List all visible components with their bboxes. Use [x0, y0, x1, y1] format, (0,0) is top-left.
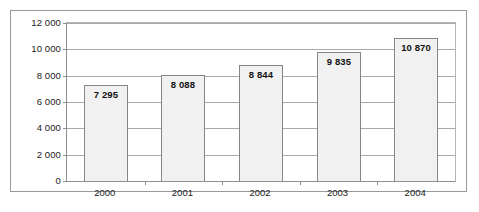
x-tick-label: 2004 — [405, 187, 426, 198]
gridline — [67, 23, 455, 24]
y-tick-label: 10 000 — [31, 43, 61, 54]
x-axis: 20002001200220032004 — [66, 184, 456, 202]
y-tick-label: 6 000 — [37, 96, 61, 107]
bar-chart-figure: 02 0004 0006 0008 00010 00012 000 7 2958… — [11, 11, 468, 193]
y-tick-label: 4 000 — [37, 122, 61, 133]
y-tick-label: 0 — [56, 175, 61, 186]
y-tick-label: 2 000 — [37, 148, 61, 159]
y-tickmark — [63, 102, 67, 103]
y-axis: 02 0004 0006 0008 00010 00012 000 — [11, 11, 65, 193]
bar-value-label: 9 835 — [318, 56, 360, 67]
bar: 10 870 — [394, 38, 438, 181]
y-tickmark — [63, 76, 67, 77]
y-tick-label: 8 000 — [37, 69, 61, 80]
plot-area: 7 2958 0888 8449 83510 870 — [66, 22, 456, 182]
bar: 7 295 — [84, 85, 128, 181]
x-tick-label: 2002 — [249, 187, 270, 198]
y-tickmark — [63, 181, 67, 182]
bar-value-label: 8 088 — [162, 79, 204, 90]
bar-value-label: 10 870 — [395, 42, 437, 53]
bar-value-label: 8 844 — [240, 69, 282, 80]
bar: 9 835 — [317, 52, 361, 181]
bar: 8 844 — [239, 65, 283, 181]
x-tick-label: 2003 — [327, 187, 348, 198]
x-tick-label: 2001 — [172, 187, 193, 198]
y-tickmark — [63, 128, 67, 129]
bar-value-label: 7 295 — [85, 89, 127, 100]
y-tickmark — [63, 155, 67, 156]
chart-frame: 02 0004 0006 0008 00010 00012 000 7 2958… — [10, 10, 467, 192]
x-tick-label: 2000 — [94, 187, 115, 198]
gridline — [67, 181, 455, 182]
y-tickmark — [63, 49, 67, 50]
y-tick-label: 12 000 — [31, 17, 61, 28]
bar: 8 088 — [161, 75, 205, 181]
y-tickmark — [63, 23, 67, 24]
